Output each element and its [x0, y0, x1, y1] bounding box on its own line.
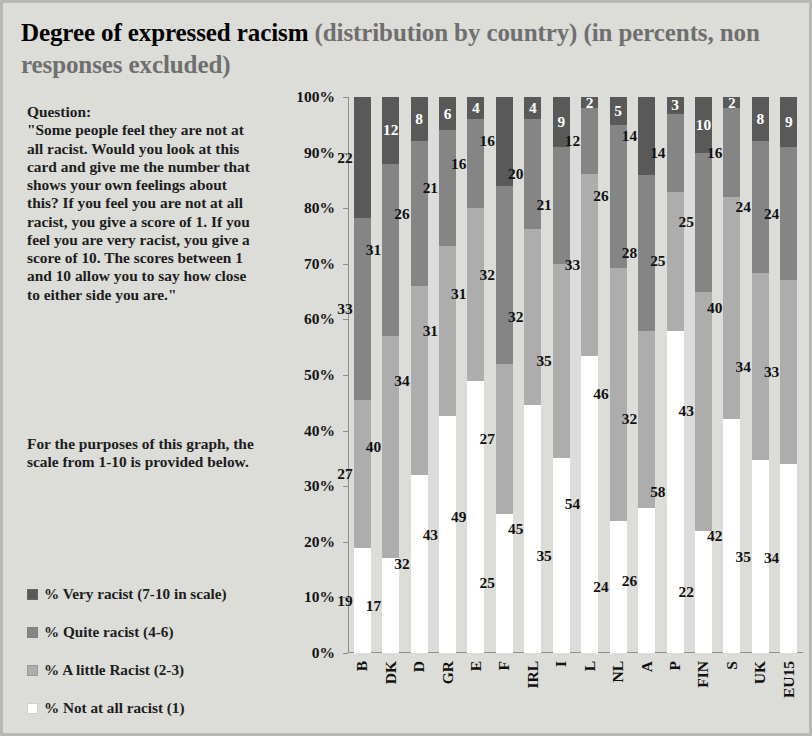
bar-segment[interactable]: 5	[610, 97, 627, 125]
bar-column[interactable]: 10254322	[689, 97, 717, 653]
bar-segment[interactable]: 49	[467, 381, 484, 653]
bar-segment[interactable]: 58	[667, 331, 684, 653]
x-axis-tick-label: S	[723, 661, 741, 670]
bar-stack: 9243334	[780, 97, 797, 653]
bar-segment-value: 40	[366, 440, 381, 455]
bar-segment-value: 46	[593, 387, 608, 402]
bar-segment[interactable]: 16	[723, 108, 740, 197]
bar-segment[interactable]: 40	[723, 197, 740, 419]
bar-segment[interactable]: 45	[524, 405, 541, 653]
x-axis-tick-label: GR	[439, 661, 457, 684]
bar-segment[interactable]: 8	[411, 97, 428, 141]
bar-segment[interactable]: 43	[695, 292, 712, 531]
bar-segment[interactable]: 35	[553, 458, 570, 653]
bar-segment[interactable]: 43	[439, 416, 456, 653]
bar-segment-value: 3	[671, 98, 679, 113]
bar-segment[interactable]: 35	[553, 264, 570, 459]
bar-column[interactable]: 3142558	[661, 97, 689, 653]
bar-stack: 14283226	[638, 97, 655, 653]
bar-segment[interactable]: 24	[780, 147, 797, 280]
bar-segment[interactable]: 3	[667, 97, 684, 114]
bar-segment-value: 9	[557, 114, 565, 129]
bar-segment[interactable]: 25	[667, 192, 684, 331]
bar-segment[interactable]: 34	[780, 464, 797, 653]
bar-column[interactable]: 4203245	[519, 97, 547, 653]
bar-segment[interactable]: 21	[553, 147, 570, 264]
bar-segment[interactable]: 26	[638, 508, 655, 653]
bar-segment[interactable]: 42	[723, 419, 740, 653]
x-axis-label-cell: S	[718, 659, 746, 731]
bar-segment[interactable]: 31	[439, 246, 456, 417]
x-axis-label-cell: IRL	[519, 659, 547, 731]
bar-segment[interactable]: 26	[411, 141, 428, 286]
bar-column[interactable]: 14283226	[632, 97, 660, 653]
bar-segment-value: 16	[707, 145, 722, 160]
bar-column[interactable]: 9213535	[547, 97, 575, 653]
bar-segment[interactable]: 25	[695, 153, 712, 292]
bar-segment-value: 24	[735, 199, 750, 214]
bar-segment[interactable]: 34	[411, 286, 428, 475]
y-axis-tick-label: 60%	[304, 310, 335, 328]
bar-column[interactable]: 4163149	[462, 97, 490, 653]
bar-segment[interactable]: 32	[411, 475, 428, 653]
bar-segment-value: 35	[735, 549, 750, 564]
bar-segment[interactable]: 22	[354, 97, 371, 218]
bar-segment[interactable]: 2	[581, 97, 598, 108]
bar-segment[interactable]: 2	[723, 97, 740, 108]
bar-segment[interactable]: 27	[496, 364, 513, 514]
bar-segment[interactable]: 17	[382, 558, 399, 653]
bar-column[interactable]: 6213143	[433, 97, 461, 653]
bar-segment[interactable]: 32	[524, 229, 541, 405]
bar-segment[interactable]: 14	[638, 97, 655, 175]
bar-segment[interactable]: 22	[695, 531, 712, 653]
bar-segment[interactable]: 4	[467, 97, 484, 119]
bar-segment[interactable]: 31	[382, 164, 399, 336]
bar-segment-value: 45	[508, 521, 523, 536]
bar-segment[interactable]: 12	[382, 97, 399, 164]
purpose-body: For the purposes of this graph, the scal…	[27, 435, 254, 470]
legend-swatch-icon	[27, 703, 38, 714]
bar-segment-value: 21	[536, 198, 551, 213]
y-axis-tick-label: 100%	[296, 88, 335, 106]
bar-segment[interactable]: 32	[638, 331, 655, 509]
bar-segment-value: 32	[480, 267, 495, 282]
x-axis-label-cell: DK	[376, 659, 404, 731]
bar-column[interactable]: 9243334	[775, 97, 803, 653]
bar-columns: 2233271912314017826343262131434163149163…	[348, 97, 803, 653]
bar-segment-value: 32	[622, 412, 637, 427]
bar-segment[interactable]: 31	[467, 208, 484, 380]
bar-column[interactable]: 5264624	[604, 97, 632, 653]
x-axis-tick-label: UK	[751, 661, 769, 684]
bar-segment-value: 58	[650, 484, 665, 499]
bar-column[interactable]: 22332719	[348, 97, 376, 653]
bar-segment[interactable]: 14	[667, 114, 684, 192]
x-axis-tick-label: I	[552, 661, 570, 667]
bar-segment[interactable]: 4	[524, 97, 541, 119]
y-axis-tick-mark	[343, 97, 348, 98]
bar-segment[interactable]: 6	[439, 97, 456, 130]
bar-segment[interactable]: 32	[496, 186, 513, 364]
y-axis-tick-mark	[343, 319, 348, 320]
x-axis-label-cell: EU15	[775, 659, 803, 731]
bar-segment[interactable]: 8	[752, 97, 769, 141]
bar-segment[interactable]: 12	[581, 108, 598, 174]
bar-segment-value: 31	[423, 323, 438, 338]
bar-segment[interactable]: 40	[382, 336, 399, 558]
bar-segment[interactable]: 33	[780, 280, 797, 463]
bar-segment[interactable]: 46	[610, 268, 627, 521]
bar-segment-value: 4	[472, 100, 480, 115]
bar-segment-value: 16	[451, 156, 466, 171]
x-axis-label-cell: P	[661, 659, 689, 731]
x-axis-label-cell: F	[490, 659, 518, 731]
bar-column[interactable]: 2123354	[576, 97, 604, 653]
page-title: Degree of expressed racism (distribution…	[21, 17, 761, 81]
bar-segment[interactable]: 21	[439, 130, 456, 246]
legend-item-label: % A little Racist (2-3)	[44, 661, 184, 679]
y-axis-tick-label: 90%	[304, 144, 335, 162]
bar-segment-value: 54	[565, 497, 580, 512]
bar-segment[interactable]: 9	[780, 97, 797, 147]
y-axis-tick-label: 80%	[304, 199, 335, 217]
bar-segment[interactable]: 27	[354, 400, 371, 549]
bar-segment-value: 49	[451, 509, 466, 524]
y-axis-tick-label: 30%	[304, 477, 335, 495]
